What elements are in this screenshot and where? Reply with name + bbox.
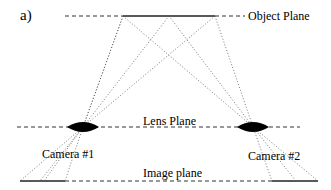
object-plane-label: Object Plane (248, 10, 310, 22)
lens-1-icon (67, 122, 99, 132)
lens-2-icon (237, 122, 269, 132)
lens-plane-label: Lens Plane (143, 115, 196, 127)
camera1-label: Camera #1 (42, 148, 94, 160)
image-plane-label: Image plane (143, 167, 202, 179)
diagram: a) Object Plane Lens Plane Camera #1 Cam… (0, 0, 331, 190)
camera2-label: Camera #2 (248, 150, 300, 162)
panel-label: a) (20, 8, 32, 23)
